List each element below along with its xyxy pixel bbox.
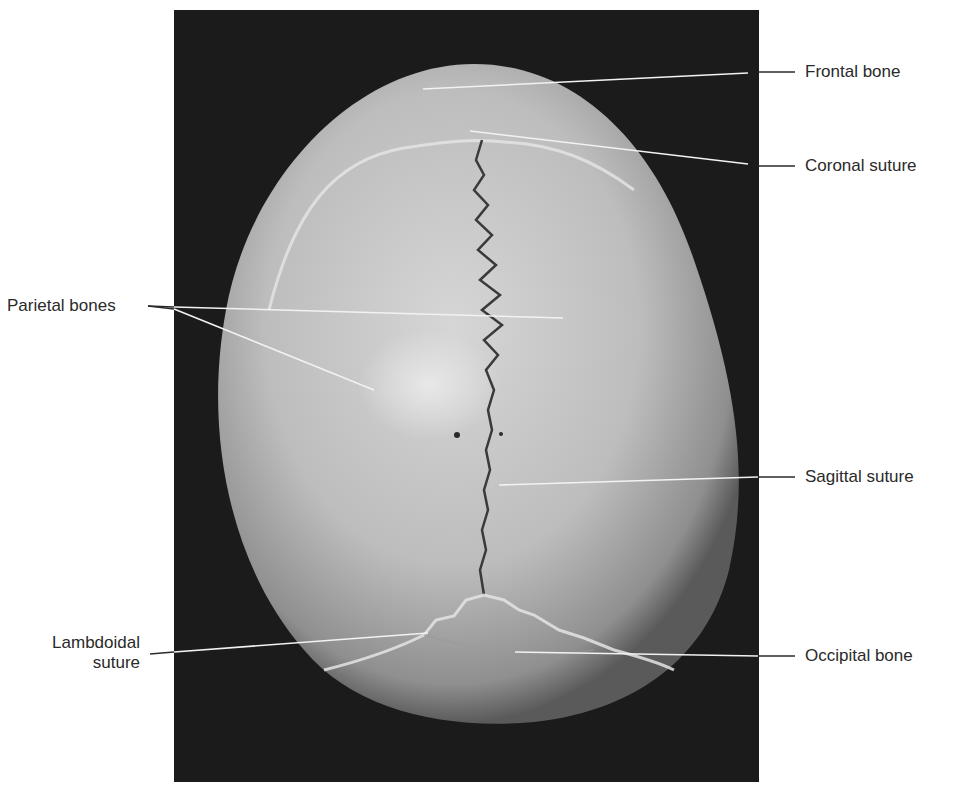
leader-line-lambdoidal-suture: [174, 633, 428, 652]
label-sagittal-suture: Sagittal suture: [805, 467, 914, 487]
label-coronal-suture: Coronal suture: [805, 156, 917, 176]
leader-line-parietal-lower: [174, 309, 374, 390]
label-lambdoidal-suture: Lambdoidal suture: [30, 633, 140, 673]
leader-line-coronal-suture: [470, 131, 748, 164]
label-lambdoidal-line1: Lambdoidal: [30, 633, 140, 653]
leader-line-parietal-upper: [174, 307, 563, 318]
label-occipital-bone: Occipital bone: [805, 646, 913, 666]
label-parietal-bones: Parietal bones: [7, 296, 116, 316]
leader-lines: [0, 0, 962, 797]
leader-line-sagittal-suture: [499, 477, 758, 485]
leader-line-frontal-bone: [423, 73, 748, 89]
label-frontal-bone: Frontal bone: [805, 62, 900, 82]
leader-line-occipital-bone: [515, 652, 758, 656]
leader-line-lambdoidal-outer: [150, 652, 174, 654]
label-lambdoidal-line2: suture: [30, 653, 140, 673]
skull-superior-view-figure: Frontal bone Coronal suture Parietal bon…: [0, 0, 962, 797]
